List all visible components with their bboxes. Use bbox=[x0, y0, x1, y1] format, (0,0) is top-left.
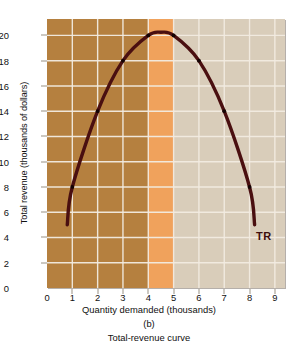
y-tick-mark bbox=[41, 237, 47, 238]
figure-caption: Total-revenue curve bbox=[0, 332, 298, 343]
y-tick-label: 18 bbox=[0, 55, 9, 66]
x-tick-mark bbox=[249, 289, 250, 294]
x-tick-mark bbox=[148, 289, 149, 294]
y-tick-label: 4 bbox=[0, 232, 9, 243]
x-tick-mark bbox=[274, 289, 275, 294]
data-point-marker bbox=[172, 34, 176, 38]
y-tick-mark bbox=[41, 111, 47, 112]
chart-canvas bbox=[47, 19, 285, 288]
x-tick-mark bbox=[224, 289, 225, 294]
y-tick-label: 6 bbox=[0, 207, 9, 218]
y-tick-mark bbox=[41, 85, 47, 86]
data-point-marker bbox=[222, 109, 226, 113]
y-tick-label: 0 bbox=[0, 283, 9, 294]
y-tick-mark bbox=[41, 262, 47, 263]
y-tick-label: 16 bbox=[0, 80, 9, 91]
plot-area bbox=[47, 19, 285, 288]
y-tick-label: 8 bbox=[0, 181, 9, 192]
data-point-marker bbox=[197, 59, 201, 63]
y-tick-mark bbox=[41, 60, 47, 61]
y-tick-mark bbox=[41, 35, 47, 36]
y-tick-label: 10 bbox=[0, 156, 9, 167]
y-tick-label: 14 bbox=[0, 106, 9, 117]
y-tick-label: 2 bbox=[0, 257, 9, 268]
x-tick-mark bbox=[97, 289, 98, 294]
x-tick-mark bbox=[122, 289, 123, 294]
data-point-marker bbox=[248, 185, 252, 189]
x-tick-mark bbox=[173, 289, 174, 294]
x-tick-mark bbox=[72, 289, 73, 294]
y-tick-mark bbox=[41, 161, 47, 162]
y-tick-mark bbox=[41, 186, 47, 187]
data-point-marker bbox=[96, 109, 100, 113]
data-point-marker bbox=[146, 34, 150, 38]
series-label-tr: TR bbox=[256, 230, 272, 242]
y-tick-mark bbox=[41, 212, 47, 213]
data-point-marker bbox=[121, 59, 125, 63]
x-axis-title: Quantity demanded (thousands) bbox=[0, 304, 298, 315]
data-point-marker bbox=[70, 185, 74, 189]
x-tick-mark bbox=[198, 289, 199, 294]
y-axis-title: Total revenue (thousands of dollars) bbox=[19, 43, 29, 263]
y-tick-label: $20 bbox=[0, 30, 9, 41]
y-tick-label: 12 bbox=[0, 131, 9, 142]
x-tick-label: 0 bbox=[35, 292, 59, 303]
y-tick-mark bbox=[41, 136, 47, 137]
panel-label: (b) bbox=[0, 318, 298, 329]
total-revenue-figure: Total revenue (thousands of dollars) 024… bbox=[0, 0, 298, 347]
